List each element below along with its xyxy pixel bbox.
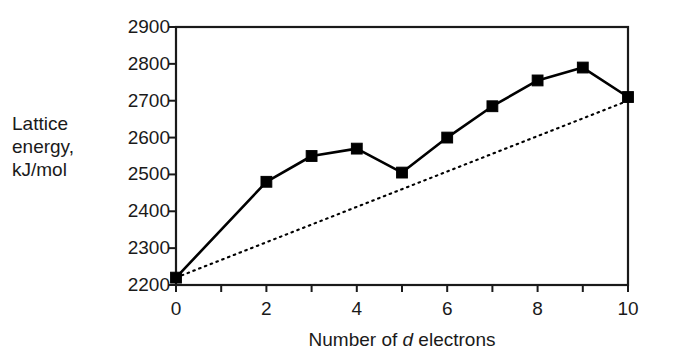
plot-frame: [176, 27, 628, 285]
data-point-marker: [261, 176, 272, 187]
data-point-marker: [487, 101, 498, 112]
data-point-marker: [442, 132, 453, 143]
series-line-reference-trend-line: [176, 101, 628, 278]
chart-figure: Lattice energy, kJ/mol 22002300240025002…: [0, 0, 680, 360]
data-point-marker: [351, 143, 362, 154]
data-point-marker: [532, 75, 543, 86]
data-point-marker: [397, 167, 408, 178]
data-point-marker: [306, 151, 317, 162]
data-point-marker: [577, 62, 588, 73]
plot-area: [0, 0, 680, 360]
